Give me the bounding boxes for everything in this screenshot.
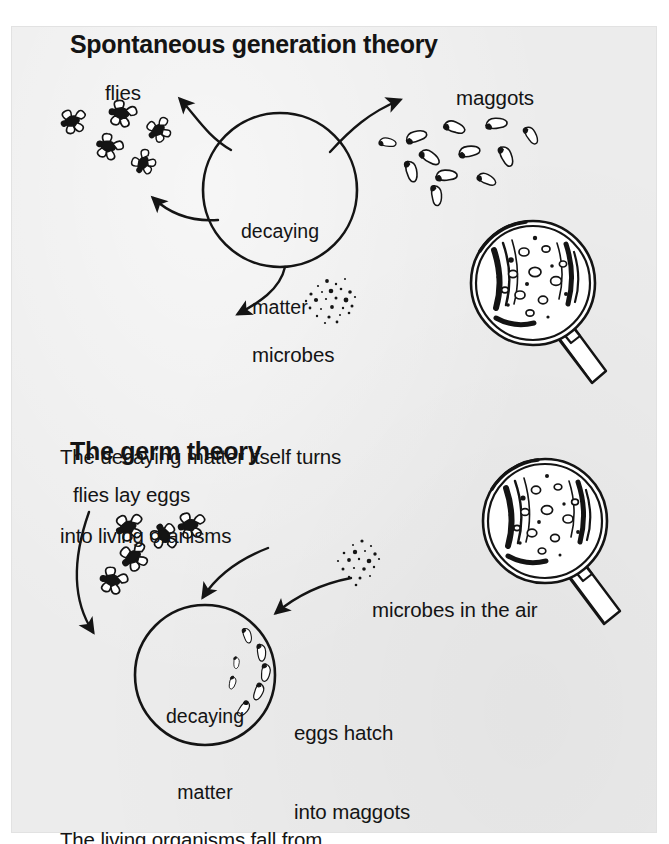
- label-flies: flies: [105, 80, 141, 105]
- decaying-matter-2-line1: decaying: [130, 704, 280, 729]
- decaying-matter-label-1: decaying matter: [205, 168, 355, 371]
- caption-2-line-1: The living organisms fall from: [60, 827, 386, 844]
- heading-germ-theory: The germ theory: [70, 436, 261, 467]
- label-maggots: maggots: [456, 85, 534, 110]
- decaying-matter-line1: decaying: [205, 219, 355, 244]
- eggs-hatch-line-1: eggs hatch: [294, 720, 410, 746]
- label-flies-lay-eggs: flies lay eggs: [73, 482, 190, 507]
- heading-spontaneous-generation: Spontaneous generation theory: [70, 29, 438, 60]
- figure-page: Spontaneous generation theory flies magg…: [0, 0, 669, 844]
- label-microbes: microbes: [252, 342, 334, 367]
- caption-line-2: into living oranisms: [60, 523, 341, 549]
- label-microbes-in-the-air: microbes in the air: [372, 597, 538, 622]
- decaying-matter-line2: matter: [205, 295, 355, 320]
- caption-germ-theory: The living organisms fall from the air a…: [60, 775, 386, 844]
